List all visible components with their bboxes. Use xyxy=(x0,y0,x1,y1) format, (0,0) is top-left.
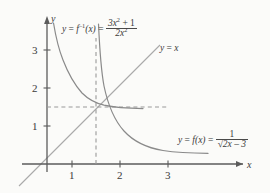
inverse-equals-1: = xyxy=(69,24,74,34)
inverse-arg: (x) xyxy=(85,24,96,34)
inverse-numerator-exponent: 2 xyxy=(117,15,120,22)
inverse-numerator-term: 3x xyxy=(108,18,117,28)
function-radicand: 2x – 3 xyxy=(223,139,246,149)
function-equals-1: = xyxy=(185,135,190,145)
inverse-lhs: y xyxy=(62,24,66,34)
function-label: y = f(x) = 1 √2x – 3 xyxy=(178,131,248,151)
x-tick-label-3: 3 xyxy=(165,169,171,181)
inverse-equals-2: = xyxy=(98,24,103,34)
identity-rhs: x xyxy=(174,43,178,53)
inverse-fraction: 3x2 + 1 2x2 xyxy=(106,19,137,39)
function-lhs: y xyxy=(178,135,182,145)
x-axis-arrow-icon xyxy=(236,161,243,167)
x-tick-label-2: 2 xyxy=(117,169,123,181)
inverse-denominator-exponent: 2 xyxy=(124,26,127,33)
identity-line xyxy=(19,45,160,186)
function-fraction: 1 √2x – 3 xyxy=(216,130,248,150)
function-arg: (x) xyxy=(195,135,206,145)
y-tick-label-2: 2 xyxy=(32,82,38,94)
inverse-denominator: 2x2 xyxy=(106,28,137,39)
function-denominator: √2x – 3 xyxy=(216,139,248,150)
inverse-function-label: y = f–1(x) = 3x2 + 1 2x2 xyxy=(62,20,137,40)
y-axis-arrow-icon xyxy=(44,16,50,24)
identity-equals: = xyxy=(167,43,172,53)
inverse-denominator-term: 2x xyxy=(115,28,124,38)
identity-lhs: y xyxy=(160,43,164,53)
y-axis-label: y xyxy=(51,13,55,24)
function-equals-2: = xyxy=(208,135,213,145)
inverse-numerator: 3x2 + 1 xyxy=(106,19,137,29)
function-numerator: 1 xyxy=(216,130,248,140)
x-axis-label: x xyxy=(247,159,251,170)
y-tick-label-1: 1 xyxy=(32,120,38,132)
identity-line-label: y = x xyxy=(160,44,179,54)
y-tick-label-3: 3 xyxy=(32,44,38,56)
x-tick-label-1: 1 xyxy=(69,169,75,181)
